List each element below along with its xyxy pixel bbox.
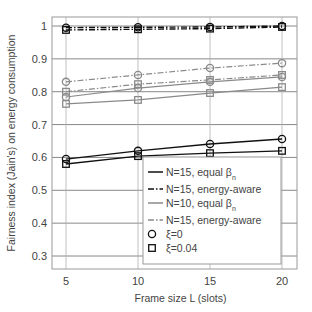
series-layer <box>62 22 285 167</box>
series-line <box>62 22 285 31</box>
legend-label: N=15, energy-aware <box>166 214 262 226</box>
y-tick-label: 0.9 <box>32 53 47 65</box>
series-polyline <box>66 139 282 159</box>
x-axis-ticks: 5101520 <box>63 275 288 287</box>
x-axis-label: Frame size L (slots) <box>135 292 227 304</box>
legend-label: N=15, energy-aware <box>166 183 262 195</box>
x-tick-label: 5 <box>63 275 69 287</box>
legend-subscript: n <box>232 205 236 212</box>
legend-item: N=15, energy-aware <box>148 214 262 226</box>
y-tick-label: 0.8 <box>32 86 47 98</box>
series-polyline <box>66 87 282 104</box>
legend-subscript: n <box>232 174 236 181</box>
legend: N=15, equal βnN=15, energy-awareN=10, eq… <box>143 157 281 264</box>
series-polyline <box>66 77 282 97</box>
y-tick-label: 0.3 <box>32 250 47 262</box>
y-tick-label: 1 <box>41 20 47 32</box>
fairness-chart: 0.30.40.50.60.70.80.91 5101520 N=15, equ… <box>0 0 312 312</box>
y-tick-label: 0.6 <box>32 151 47 163</box>
y-tick-label: 0.4 <box>32 217 47 229</box>
y-axis-ticks: 0.30.40.50.60.70.80.91 <box>32 20 47 262</box>
x-tick-label: 20 <box>276 275 288 287</box>
legend-label: ξ=0 <box>166 228 183 240</box>
y-tick-label: 0.7 <box>32 119 47 131</box>
x-tick-label: 10 <box>132 275 144 287</box>
y-axis-label: Fairness index (Jain's) on energy consum… <box>5 34 17 251</box>
legend-item: N=15, energy-aware <box>148 183 262 195</box>
x-tick-label: 15 <box>204 275 216 287</box>
legend-label: ξ=0.04 <box>166 242 197 254</box>
series-line <box>63 24 286 34</box>
y-tick-label: 0.5 <box>32 184 47 196</box>
series-line <box>63 84 286 107</box>
